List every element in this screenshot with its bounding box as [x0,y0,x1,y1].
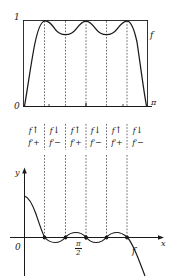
top-chart-y-max-label: 1 [14,13,20,22]
sign-cell-1: f↑ f′+ [23,124,45,150]
bottom-chart-y-axis-label: y [15,169,20,177]
curve-f [25,21,147,106]
sign-cell-1-fprime: f′+ [23,136,45,149]
pihalf-denominator: 2 [75,249,82,257]
bottom-chart-origin-label: 0 [15,243,21,252]
sign-cell-3-fprime: f′+ [65,136,87,149]
bottom-chart [10,155,164,276]
sign-cell-2-fprime: f′− [44,136,66,149]
arrow-up-icon: ↑ [115,125,123,135]
zero-marker-5 [125,236,129,240]
sign-cell-3-f: f↑ [65,124,87,136]
top-chart-y-min-label: 0 [14,102,20,111]
arrow-up-icon: ↑ [74,125,82,135]
sign-cell-2-f: f↓ [44,124,66,136]
sign-cell-6-f: f↓ [127,124,149,136]
arrow-down-icon: ↓ [53,125,61,135]
pihalf-numerator: π [75,240,82,249]
sign-cell-4-fprime: f′− [85,136,107,149]
sign-cell-1-f: f↑ [23,124,45,136]
bottom-chart-x-axis-label: x [161,240,166,248]
sign-cell-4: f↓ f′− [85,124,107,150]
sign-cell-2: f↓ f′− [44,124,66,150]
zero-marker-1 [43,236,47,240]
sign-cell-5-f: f↑ [106,124,128,136]
top-chart-x-max-label: π [151,99,156,107]
zero-marker-3 [84,236,88,240]
bottom-chart-curve-label: f′ [132,247,137,256]
zero-marker-2 [64,236,68,240]
arrow-down-icon: ↓ [136,125,144,135]
sign-cell-4-f: f↓ [85,124,107,136]
sign-cell-5: f↑ f′+ [106,124,128,150]
arrow-up-icon: ↑ [32,125,40,135]
y-axis-arrowhead [22,168,27,174]
zero-marker-4 [105,236,109,240]
sign-cell-3: f↑ f′+ [65,124,87,150]
top-chart: f [23,20,155,107]
sign-cell-6-fprime: f′− [127,136,149,149]
bottom-chart-dashed-lines [45,155,128,237]
sign-cell-5-fprime: f′+ [106,136,128,149]
top-chart-dashed-lines [45,21,128,106]
bottom-chart-pihalf-label: π 2 [75,240,82,257]
top-chart-curve-label: f [149,30,155,40]
sign-cell-6: f↓ f′− [127,124,149,150]
sign-chart: f↑ f′+ f↓ f′− f↑ f′+ f↓ f′− f↑ f′+ f↓ f′… [0,124,171,150]
arrow-down-icon: ↓ [94,125,102,135]
